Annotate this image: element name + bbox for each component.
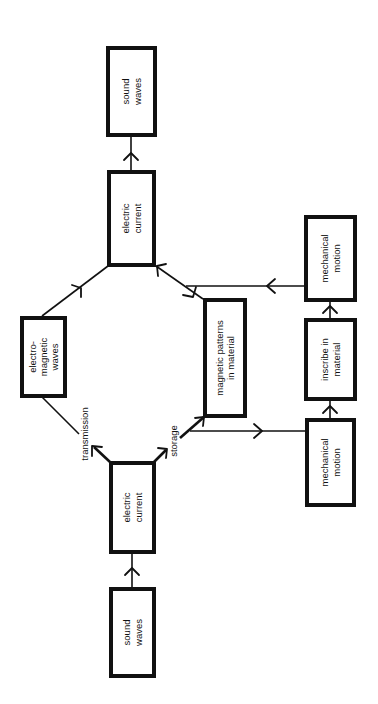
node-mechanical-motion-out: mechanical motion — [306, 217, 355, 300]
sound-transmission-storage-diagram: sound waves electric current electro- ma… — [0, 0, 378, 704]
node-label: mechanical — [319, 234, 330, 282]
edge-mechanical-to-current-out — [186, 279, 304, 293]
node-label: sound — [120, 79, 131, 105]
node-label: material — [331, 343, 342, 377]
edge-label-transmission-wrap: transmission — [79, 407, 90, 460]
node-label: electric — [121, 492, 132, 522]
edge-em-waves-to-current-out — [42, 266, 108, 316]
node-label: motion — [331, 244, 342, 273]
node-inscribe-in-material: inscribe in material — [306, 320, 355, 399]
node-label: sound — [121, 620, 132, 646]
node-label: inscribe in — [319, 338, 330, 381]
edge-current-to-transmission — [92, 446, 110, 462]
edge-label-transmission: transmission — [79, 407, 90, 460]
node-label: motion — [331, 448, 342, 477]
node-sound-waves-out: sound waves — [108, 48, 155, 135]
node-sound-waves-in: sound waves — [111, 589, 154, 676]
edge-mechanical-to-inscribe — [323, 400, 337, 418]
edge-label-storage: storage — [168, 425, 179, 457]
edges — [42, 136, 337, 587]
node-mechanical-motion-in: mechanical motion — [307, 420, 354, 505]
edge-storage-to-mechanical-motion — [190, 424, 305, 438]
arrowhead-icon — [183, 287, 196, 297]
edge-magnetic-to-current-out — [156, 264, 203, 299]
edge-storage-to-magnetic-patterns — [180, 417, 204, 438]
node-label: current — [132, 203, 143, 233]
node-label: current — [133, 492, 144, 522]
edge-sound-to-current-in — [125, 553, 139, 587]
node-label: electro- — [27, 341, 38, 373]
node-magnetic-patterns: magnetic patterns in material — [205, 300, 245, 416]
edge-transmission-to-em-waves — [42, 397, 79, 434]
node-label: in material — [225, 336, 236, 380]
node-label: magnetic — [38, 337, 49, 376]
node-electromagnetic-waves: electro- magnetic waves — [22, 318, 65, 396]
node-label: waves — [133, 619, 144, 647]
node-label: electric — [120, 203, 131, 233]
arrowhead-icon — [72, 285, 81, 297]
edge-label-storage-wrap: storage — [168, 425, 179, 457]
node-electric-current-in: electric current — [111, 463, 154, 552]
node-label: magnetic patterns — [214, 320, 225, 396]
node-label: waves — [132, 78, 143, 106]
node-label: mechanical — [319, 438, 330, 486]
edge-current-to-sound-out — [124, 136, 138, 170]
node-electric-current-out: electric current — [109, 172, 154, 265]
edge-inscribe-to-mechanical — [323, 301, 337, 318]
node-label: waves — [49, 343, 60, 371]
edge-current-to-storage — [154, 448, 167, 462]
